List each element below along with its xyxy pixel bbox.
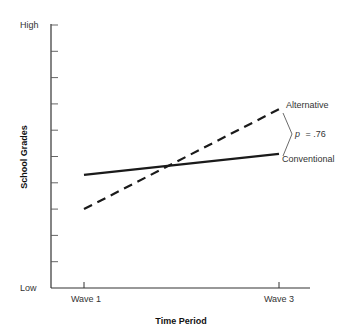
y-label-low: Low: [20, 283, 37, 293]
line-chart: High Low School Grades Wave 1 Wave 3 Tim…: [0, 0, 349, 336]
x-label-wave3: Wave 3: [264, 294, 294, 304]
series-line-alternative: [84, 109, 279, 209]
p-value: = .76: [306, 129, 326, 139]
series-label-conventional: Conventional: [282, 154, 335, 164]
series-line-conventional: [84, 154, 279, 175]
y-axis-title: School Grades: [19, 125, 29, 189]
p-symbol: p: [294, 129, 300, 139]
significance-bracket: [283, 113, 292, 156]
y-label-high: High: [20, 20, 39, 30]
x-label-wave1: Wave 1: [71, 294, 101, 304]
y-axis-ticks: [51, 25, 58, 262]
series-label-alternative: Alternative: [286, 100, 329, 110]
p-value-annotation: p = .76: [294, 129, 326, 139]
x-axis-title: Time Period: [155, 316, 206, 326]
